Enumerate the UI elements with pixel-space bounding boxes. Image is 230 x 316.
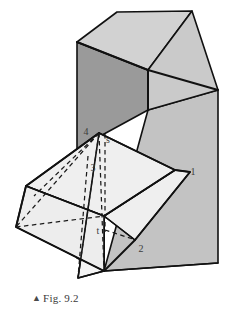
figure-container: 4 s 3 1 t 2 ▲Fig. 9.2 bbox=[0, 0, 230, 316]
label-vertex-4: 4 bbox=[84, 126, 89, 137]
label-vertex-s: s bbox=[106, 134, 110, 145]
figure-caption: ▲Fig. 9.2 bbox=[32, 292, 79, 304]
caption-triangle-icon: ▲ bbox=[32, 293, 41, 303]
figure-illustration: 4 s 3 1 t 2 bbox=[0, 0, 230, 316]
label-vertex-t: t bbox=[97, 225, 100, 236]
label-vertex-2: 2 bbox=[139, 243, 144, 254]
label-vertex-1: 1 bbox=[191, 166, 196, 177]
label-vertex-3: 3 bbox=[91, 162, 96, 173]
caption-label: Fig. 9.2 bbox=[43, 292, 79, 304]
